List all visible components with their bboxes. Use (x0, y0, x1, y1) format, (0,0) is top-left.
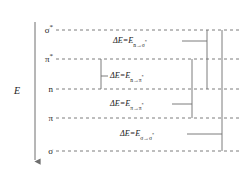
transition-label-n-to-sigma-star: ΔE=En→σ* (113, 37, 147, 45)
transition-label-sigma-to-sigma-star: ΔE=Eσ→σ* (120, 130, 154, 138)
orbital-label-sigma-star: σ* (45, 26, 53, 35)
orbital-label-pi: π (48, 114, 53, 123)
energy-axis-label: E (14, 86, 20, 96)
mo-energy-diagram: Eσ*π*nπσΔE=En→σ*ΔE=En→π*ΔE=Eπ→π*ΔE=Eσ→σ* (0, 0, 245, 173)
orbital-label-pi-star: π* (45, 55, 53, 64)
orbital-label-sigma: σ (48, 147, 53, 156)
transition-label-pi-to-pi-star: ΔE=Eπ→π* (110, 100, 144, 108)
orbital-label-n: n (49, 85, 54, 94)
transition-label-n-to-pi-star: ΔE=En→π* (110, 72, 144, 80)
diagram-canvas (0, 0, 245, 173)
